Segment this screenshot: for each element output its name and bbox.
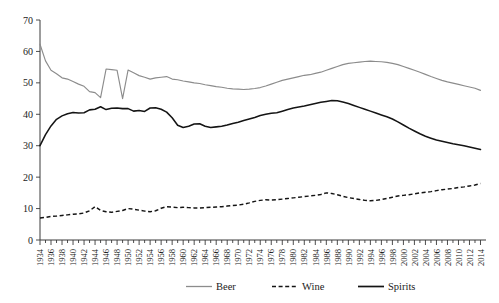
x-tick-label: 2004 (421, 248, 431, 266)
x-tick-label: 2012 (465, 249, 475, 266)
x-tick-label: 1994 (366, 248, 376, 266)
x-tick-label: 1998 (388, 249, 398, 266)
x-tick-label: 1938 (57, 249, 67, 266)
x-tick-label: 1954 (145, 248, 155, 266)
x-tick-label: 1984 (311, 248, 321, 266)
y-tick-label: 20 (23, 172, 33, 183)
y-tick-label: 50 (23, 77, 33, 88)
chart-legend: BeerWineSpirits (186, 281, 415, 292)
x-tick-label: 1974 (255, 248, 265, 266)
x-tick-label: 2000 (399, 249, 409, 266)
chart-container: 010203040506070 193419361938194019421944… (0, 0, 499, 303)
x-tick-label: 1964 (200, 248, 210, 266)
x-tick-label: 1986 (322, 249, 332, 266)
x-tick-label: 1976 (266, 249, 276, 266)
legend-label-wine: Wine (302, 281, 325, 292)
x-tick-label: 1970 (233, 249, 243, 266)
x-tick-label: 1988 (333, 249, 343, 266)
x-tick-label: 1996 (377, 249, 387, 266)
legend-label-beer: Beer (216, 281, 236, 292)
x-tick-label: 1958 (167, 249, 177, 266)
x-tick-label: 1992 (355, 249, 365, 266)
x-tick-label: 2006 (432, 249, 442, 266)
y-tick-label: 0 (28, 235, 33, 246)
legend-label-spirits: Spirits (388, 281, 415, 292)
x-axis-ticks: 1934193619381940194219441946194819501952… (35, 240, 485, 266)
x-tick-label: 1960 (178, 249, 188, 266)
series-line-wine (40, 183, 480, 218)
x-tick-label: 1952 (134, 249, 144, 266)
x-tick-label: 1950 (123, 249, 133, 266)
x-tick-label: 1940 (68, 249, 78, 266)
x-tick-label: 1968 (222, 249, 232, 266)
x-tick-label: 2002 (410, 249, 420, 266)
x-tick-label: 1946 (101, 249, 111, 266)
x-tick-label: 2008 (443, 249, 453, 266)
x-tick-label: 2010 (454, 249, 464, 266)
x-tick-label: 2014 (476, 248, 486, 266)
x-tick-label: 1948 (112, 249, 122, 266)
x-tick-label: 1962 (189, 249, 199, 266)
x-tick-label: 1934 (35, 248, 45, 266)
x-tick-label: 1956 (156, 249, 166, 266)
x-tick-label: 1942 (79, 249, 89, 266)
x-tick-label: 1966 (211, 249, 221, 266)
series-line-spirits (40, 100, 480, 149)
x-tick-label: 1978 (277, 249, 287, 266)
x-tick-label: 1944 (90, 248, 100, 266)
x-tick-label: 1936 (46, 249, 56, 266)
x-tick-label: 1972 (244, 249, 254, 266)
y-tick-label: 10 (23, 203, 33, 214)
alcohol-consumption-line-chart: 010203040506070 193419361938194019421944… (0, 0, 499, 303)
y-tick-label: 60 (23, 46, 33, 57)
x-tick-label: 1982 (299, 249, 309, 266)
y-tick-label: 30 (23, 140, 33, 151)
y-tick-label: 70 (23, 15, 33, 26)
series-line-beer (40, 44, 480, 98)
y-tick-label: 40 (23, 109, 33, 120)
x-tick-label: 1990 (344, 249, 354, 266)
x-tick-label: 1980 (288, 249, 298, 266)
y-axis-ticks: 010203040506070 (23, 15, 40, 246)
